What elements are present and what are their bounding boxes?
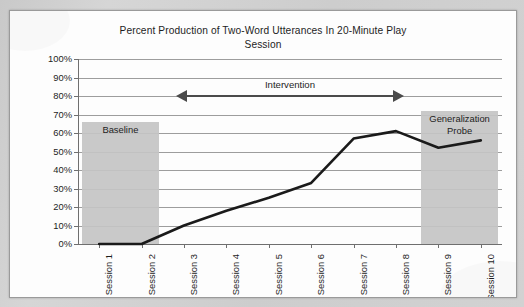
x-axis-label: Session 8 bbox=[400, 251, 411, 292]
scanned-page: Percent Production of Two-Word Utterance… bbox=[0, 0, 524, 307]
x-axis-label: Session 2 bbox=[146, 251, 157, 292]
y-axis-label: 50% bbox=[16, 146, 72, 157]
plot-area: BaselineGeneralizationProbe 0%10%20%30%4… bbox=[78, 59, 502, 244]
x-axis-label: Session 5 bbox=[273, 251, 284, 292]
intervention-label: Intervention bbox=[176, 79, 403, 90]
x-axis-label: Session 9 bbox=[442, 251, 453, 292]
y-axis-label: 30% bbox=[16, 183, 72, 194]
y-axis-label: 10% bbox=[16, 220, 72, 231]
y-axis-label: 70% bbox=[16, 109, 72, 120]
intervention-arrowhead-right bbox=[393, 90, 404, 102]
chart-panel: Percent Production of Two-Word Utterance… bbox=[9, 10, 517, 298]
chart-title-line-1: Percent Production of Two-Word Utterance… bbox=[10, 24, 516, 38]
x-axis-label: Session 10 bbox=[485, 251, 496, 297]
x-axis-label: Session 6 bbox=[315, 251, 326, 292]
intervention-arrow-line bbox=[185, 95, 394, 98]
y-axis-label: 100% bbox=[16, 53, 72, 64]
y-axis-label: 90% bbox=[16, 72, 72, 83]
y-axis-label: 20% bbox=[16, 201, 72, 212]
chart-title: Percent Production of Two-Word Utterance… bbox=[10, 24, 516, 51]
x-axis-label: Session 7 bbox=[358, 251, 369, 292]
x-axis-label: Session 3 bbox=[188, 251, 199, 292]
x-axis-label: Session 4 bbox=[230, 251, 241, 292]
y-axis-label: 60% bbox=[16, 127, 72, 138]
intervention-arrowhead-left bbox=[176, 90, 187, 102]
y-axis-label: 80% bbox=[16, 90, 72, 101]
y-axis-label: 40% bbox=[16, 164, 72, 175]
chart-title-line-2: Session bbox=[10, 38, 516, 52]
y-axis-label: 0% bbox=[16, 238, 72, 249]
x-axis-label: Session 1 bbox=[103, 251, 114, 292]
